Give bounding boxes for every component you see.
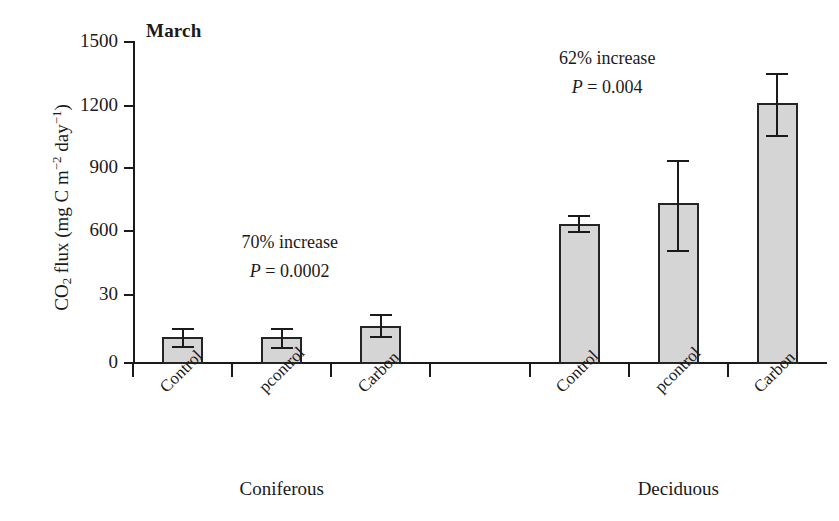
bar [757, 103, 798, 364]
annotation: 70% increaseP = 0.0002 [241, 232, 337, 282]
error-bar-cap-lower [568, 231, 590, 233]
y-axis-tick-label: 0 [58, 351, 118, 373]
y-axis-tick [124, 167, 134, 169]
annotation-pvalue-text: P = 0.0002 [241, 261, 337, 282]
y-axis-tick-label: 600 [58, 219, 118, 241]
y-axis-label-mid2: day [51, 124, 72, 156]
error-bar-stem [281, 328, 283, 347]
chart-figure: March CO2 flux (mg C m−2 day−1) 03060090… [0, 0, 839, 521]
error-bar-cap-upper [667, 160, 689, 162]
y-axis-tick [124, 41, 134, 43]
x-axis-tick [231, 364, 233, 377]
x-axis-tick [132, 364, 134, 377]
error-bar-stem [776, 73, 778, 135]
y-axis-tick-label: 1200 [58, 94, 118, 116]
page-title: March [146, 20, 202, 42]
x-axis-tick [628, 364, 630, 377]
x-axis-tick [727, 364, 729, 377]
annotation-increase-text: 62% increase [559, 48, 655, 69]
y-axis-tick [124, 230, 134, 232]
group-label: Deciduous [638, 478, 719, 500]
error-bar-stem [182, 328, 184, 346]
y-axis-tick-label: 30 [58, 283, 118, 305]
annotation-pvalue-text: P = 0.004 [559, 77, 655, 98]
bar [559, 224, 600, 364]
error-bar-stem [380, 314, 382, 336]
y-axis-tick-label: 900 [58, 156, 118, 178]
y-axis-tick-label: 1500 [58, 30, 118, 52]
y-axis-line [133, 41, 135, 364]
error-bar-cap-lower [667, 250, 689, 252]
x-axis-line [133, 362, 827, 364]
error-bar-cap-upper [766, 73, 788, 75]
x-axis-tick [429, 364, 431, 377]
y-axis-tick [124, 105, 134, 107]
annotation-increase-text: 70% increase [241, 232, 337, 253]
error-bar-cap-upper [172, 328, 194, 330]
error-bar-stem [677, 160, 679, 250]
error-bar-stem [578, 215, 580, 231]
annotation-p-symbol: P [250, 261, 261, 281]
group-label: Coniferous [239, 478, 323, 500]
x-axis-tick [529, 364, 531, 377]
error-bar-cap-upper [271, 328, 293, 330]
error-bar-cap-lower [370, 336, 392, 338]
x-axis-tick [330, 364, 332, 377]
error-bar-cap-lower [766, 135, 788, 137]
annotation-p-symbol: P [572, 77, 583, 97]
error-bar-cap-upper [370, 314, 392, 316]
error-bar-cap-upper [568, 215, 590, 217]
y-axis-tick [124, 294, 134, 296]
annotation: 62% increaseP = 0.004 [559, 48, 655, 98]
